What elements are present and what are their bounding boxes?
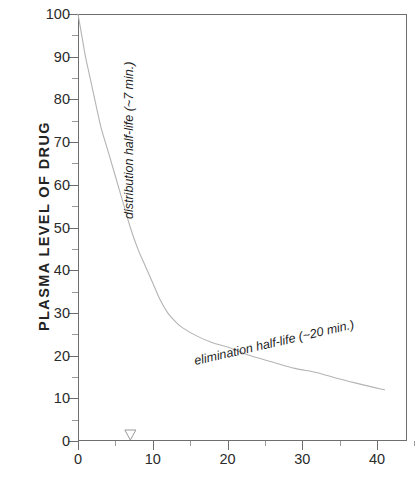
- curve-layer: [0, 0, 420, 500]
- distribution-half-life-annotation: distribution half-life (~7 min.): [122, 62, 136, 219]
- pharmacokinetic-decay-chart: PLASMA LEVEL OF DRUG 0102030405060708090…: [0, 0, 420, 500]
- distribution-half-life-marker: [125, 430, 136, 440]
